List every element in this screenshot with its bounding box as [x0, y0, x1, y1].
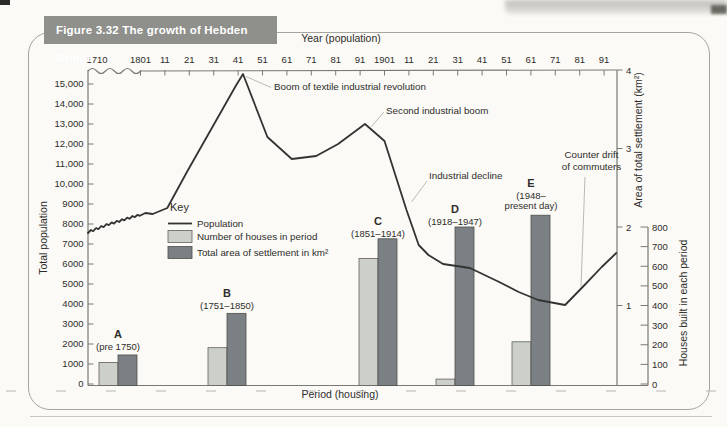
top-axis-tick-label: 91 [355, 54, 366, 65]
bar-group-letter: B [223, 287, 231, 299]
annotation-second-boom: Second industrial boom [386, 105, 488, 116]
top-axis-tick-label: 41 [477, 54, 488, 65]
top-axis-tick-label: 21 [428, 54, 439, 65]
bottom-axis-title: Period (housing) [301, 388, 378, 400]
houses-axis-tick-label: 700 [652, 241, 668, 252]
annotation-leader-boom [246, 77, 271, 88]
houses-axis-tick-label: 600 [652, 261, 668, 272]
top-axis-title: Year (population) [301, 32, 381, 44]
left-axis-tick-label: 10,000 [54, 178, 83, 189]
area-bar [118, 355, 137, 386]
houses-axis-tick-label: 400 [652, 300, 668, 311]
houses-axis-tick-label: 200 [652, 339, 668, 350]
left-axis-tick-label: 15,000 [54, 78, 83, 89]
top-axis-tick-label: 51 [501, 54, 512, 65]
bar-group-period: (pre 1750) [96, 341, 140, 352]
top-axis-tick-label: 71 [306, 54, 317, 65]
left-axis-tick-label: 14,000 [54, 98, 83, 109]
left-axis-tick-label: 1000 [62, 358, 83, 369]
top-axis-line-with-break [88, 69, 617, 74]
left-axis-tick-label: 7000 [62, 238, 83, 249]
page-artifact-bottom-line [30, 416, 712, 417]
key-dark-bar-swatch [168, 247, 192, 259]
left-axis-title: Total population [37, 201, 49, 275]
houses-axis-title: Houses built in each period [677, 240, 689, 367]
area-axis-tick-label: 4 [626, 65, 631, 76]
left-axis-tick-label: 9000 [62, 198, 83, 209]
bar-group-period: (1918–1947) [428, 216, 482, 227]
area-axis-tick-label: 3 [626, 143, 631, 154]
top-axis-tick-label: 1901 [374, 54, 395, 65]
annotation-leader-decline [412, 181, 428, 202]
bar-group-period: (1751–1850) [200, 300, 254, 311]
top-axis-tick-label: 31 [208, 54, 219, 65]
annotation-leader-counter-drift [581, 177, 585, 287]
key-label-population: Population [197, 218, 243, 229]
annotation-counter-drift: of commuters [562, 161, 621, 172]
houses-axis-tick-label: 100 [652, 359, 668, 370]
left-axis-tick-label: 5000 [62, 278, 83, 289]
left-axis-tick-label: 8000 [62, 218, 83, 229]
top-axis-tick-label: 61 [282, 54, 293, 65]
top-axis-tick-label: 91 [599, 54, 610, 65]
key-label-houses: Number of houses in period [197, 231, 317, 242]
top-axis-tick-label: 21 [184, 54, 195, 65]
area-bar [227, 313, 246, 385]
key-label-area: Total area of settlement in km² [197, 247, 329, 258]
bar-group-letter: A [114, 328, 122, 340]
top-axis-tick-label: 61 [526, 54, 537, 65]
figure-title-bar: Figure 3.32 The growth of Hebden Bridge [44, 16, 277, 44]
bar-group-letter: E [527, 177, 534, 189]
top-axis-tick-label: 41 [233, 54, 244, 65]
left-axis-tick-label: 4000 [62, 298, 83, 309]
top-axis-tick-label: 1801 [130, 54, 151, 65]
houses-bar [436, 379, 455, 385]
houses-bar [208, 348, 227, 386]
top-axis-tick-label: 31 [452, 54, 463, 65]
area-axis-tick-label: 1 [626, 300, 631, 311]
houses-bar [512, 342, 531, 386]
left-axis-tick-label: 12,000 [54, 138, 83, 149]
top-axis-tick-label: 81 [330, 54, 341, 65]
bar-group-period: present day) [505, 200, 558, 211]
houses-axis-tick-label: 800 [652, 222, 668, 233]
annotation-counter-drift: Counter drift [565, 149, 619, 160]
bar-group-letter: D [451, 203, 459, 215]
top-axis-tick-label: 11 [160, 54, 170, 65]
annotation-leader-second-boom [372, 112, 385, 127]
annotation-boom: Boom of textile industrial revolution [274, 81, 426, 92]
left-axis-tick-label: 6000 [62, 258, 83, 269]
houses-bar [359, 258, 378, 385]
key-light-bar-swatch [168, 231, 192, 243]
area-bar [455, 227, 474, 386]
left-axis-tick-label: 2000 [62, 338, 83, 349]
left-axis-tick-label: 0 [78, 378, 83, 389]
houses-bar [99, 362, 118, 385]
page: 1710180111213141516171819119011121314151… [0, 0, 727, 427]
houses-axis-tick-label: 500 [652, 280, 668, 291]
chart: 1710180111213141516171819119011121314151… [0, 0, 727, 427]
area-axis-tick-label: 2 [626, 222, 631, 233]
bar-group-letter: C [374, 215, 382, 227]
annotation-decline: Industrial decline [429, 170, 503, 181]
left-axis-tick-label: 13,000 [54, 118, 83, 129]
bar-group-period: (1851–1914) [351, 228, 405, 239]
houses-axis-tick-label: 300 [652, 320, 668, 331]
houses-axis-tick-label: 0 [652, 379, 657, 390]
top-axis-tick-label: 11 [404, 54, 414, 65]
area-bar [378, 239, 397, 386]
key-title: Key [170, 201, 189, 213]
top-axis-tick-label: 81 [574, 54, 585, 65]
top-axis-tick-label: 51 [257, 54, 268, 65]
left-axis-tick-label: 3000 [62, 318, 83, 329]
left-axis-tick-label: 11,000 [55, 158, 83, 169]
area-axis-title: Area of total settlement (km²) [632, 72, 644, 207]
top-axis-tick-label: 71 [550, 54, 561, 65]
